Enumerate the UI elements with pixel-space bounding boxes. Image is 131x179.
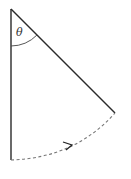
arrowhead-icon [63, 142, 72, 150]
pendulum-string [11, 9, 115, 113]
swing-arc-dashed [11, 113, 115, 160]
angle-arc [11, 35, 37, 46]
theta-label: θ [16, 26, 23, 39]
pendulum-diagram: θ [0, 0, 131, 179]
